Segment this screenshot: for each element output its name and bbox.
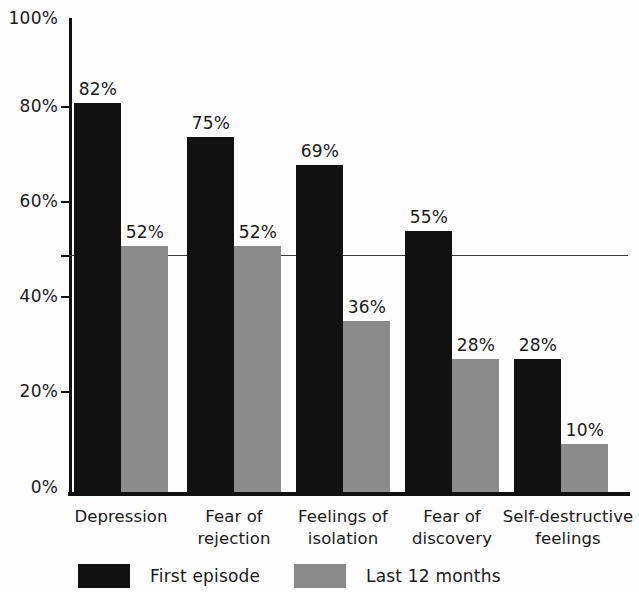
y-tick-label-80: 80%	[2, 96, 58, 116]
y-tick-label-40: 40%	[2, 286, 58, 306]
bar-value-first-episode-2: 69%	[290, 141, 350, 161]
legend-label-last-12-months: Last 12 months	[366, 566, 501, 586]
bar-value-first-episode-3: 55%	[399, 207, 459, 227]
x-axis	[68, 492, 630, 496]
legend-swatch-icon-first-episode	[78, 564, 130, 588]
legend-item-last-12-months: Last 12 months	[294, 563, 501, 589]
y-tick-label-0: 0%	[2, 477, 58, 497]
category-label-0: Depression	[61, 506, 181, 528]
bar-chart: 100% 80% 60% 40% 20% 0% 82% 52%	[0, 0, 639, 592]
bar-value-last-12-months-2: 36%	[337, 297, 397, 317]
y-tick-20: 20%	[0, 391, 58, 392]
bar-first-episode-2	[296, 165, 343, 492]
y-tick-label-60: 60%	[2, 191, 58, 211]
bar-value-last-12-months-4: 10%	[555, 420, 615, 440]
bar-first-episode-4	[514, 359, 561, 492]
y-tick-100: 100%	[0, 18, 58, 19]
bar-value-last-12-months-0: 52%	[115, 222, 175, 242]
y-tick-80: 80%	[0, 106, 58, 107]
bar-value-first-episode-0: 82%	[68, 79, 128, 99]
chart-legend: First episode Last 12 months	[0, 563, 639, 592]
bar-value-first-episode-1: 75%	[181, 113, 241, 133]
category-label-3: Fear of discovery	[392, 506, 512, 550]
legend-item-first-episode: First episode	[78, 563, 260, 589]
category-label-3-line-0: Fear of	[392, 506, 512, 528]
category-label-4-line-0: Self-destructive	[497, 506, 639, 528]
bar-last-12-months-3	[452, 359, 499, 492]
category-label-2: Feelings of isolation	[283, 506, 403, 550]
category-label-3-line-1: discovery	[392, 528, 512, 550]
category-label-4-line-1: feelings	[497, 528, 639, 550]
category-label-1-line-1: rejection	[174, 528, 294, 550]
bar-value-last-12-months-1: 52%	[228, 222, 288, 242]
category-label-1: Fear of rejection	[174, 506, 294, 550]
bar-last-12-months-0	[121, 246, 168, 492]
plot-area: 100% 80% 60% 40% 20% 0% 82% 52%	[0, 0, 639, 592]
y-tick-40: 40%	[0, 296, 58, 297]
y-tick-60: 60%	[0, 201, 58, 202]
bar-first-episode-0	[74, 103, 121, 492]
legend-label-first-episode: First episode	[150, 566, 260, 586]
category-label-2-line-0: Feelings of	[283, 506, 403, 528]
category-label-2-line-1: isolation	[283, 528, 403, 550]
legend-swatch-icon-last-12-months	[294, 564, 346, 588]
bar-first-episode-3	[405, 231, 452, 492]
category-label-0-line-0: Depression	[61, 506, 181, 528]
bar-value-first-episode-4: 28%	[508, 335, 568, 355]
y-tick-label-100: 100%	[2, 8, 58, 28]
y-tick-0: 0%	[0, 487, 58, 488]
y-tick-label-20: 20%	[2, 381, 58, 401]
bar-last-12-months-1	[234, 246, 281, 492]
category-label-1-line-0: Fear of	[174, 506, 294, 528]
bar-first-episode-1	[187, 137, 234, 492]
category-label-4: Self-destructive feelings	[497, 506, 639, 550]
bar-last-12-months-2	[343, 321, 390, 492]
bar-last-12-months-4	[561, 444, 608, 492]
bar-value-last-12-months-3: 28%	[446, 335, 506, 355]
